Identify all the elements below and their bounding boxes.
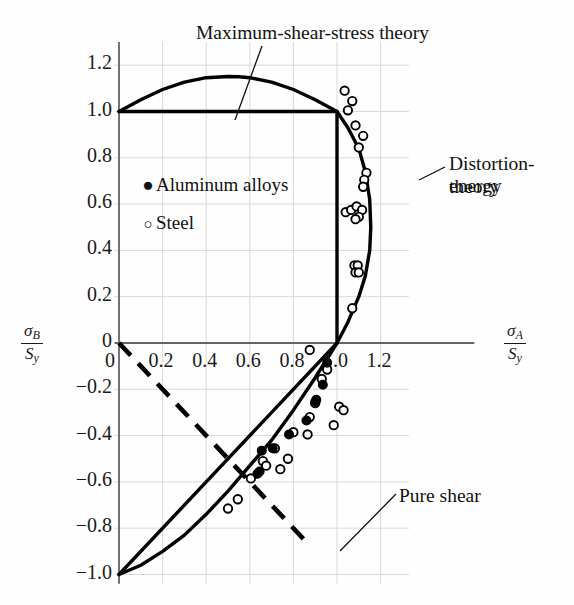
x-tick-label: 0 xyxy=(105,349,115,372)
y-tick-label: −0.6 xyxy=(76,468,112,491)
legend-item-aluminum-alloys: ●Aluminum alloys xyxy=(140,174,288,196)
x-axis-label: σA Sy xyxy=(487,322,543,364)
y-tick-label: 0.8 xyxy=(87,144,112,167)
annotation-leader-lines xyxy=(235,46,445,551)
y-tick-label: 0.4 xyxy=(87,236,112,259)
y-tick-label: 1.0 xyxy=(87,98,112,121)
legend-item-steel: ○Steel xyxy=(140,212,194,234)
annotation-pure-shear: Pure shear xyxy=(399,485,481,507)
y-tick-label: −0.4 xyxy=(76,422,112,445)
y-tick-label: −1.0 xyxy=(76,561,112,584)
x-tick-label: 0.4 xyxy=(192,349,217,372)
legend-label-aluminum-alloys: Aluminum alloys xyxy=(156,174,288,195)
y-tick-label: 0 xyxy=(102,329,112,352)
y-tick-label: −0.8 xyxy=(76,514,112,537)
y-tick-label: 0.6 xyxy=(87,190,112,213)
x-tick-label: 0.6 xyxy=(236,349,261,372)
x-axis-sy-subscript: y xyxy=(517,351,522,365)
x-tick-label: 1.2 xyxy=(367,349,392,372)
x-tick-label: 1.0 xyxy=(323,349,348,372)
filled-circle-marker-icon: ● xyxy=(140,174,156,196)
theory-curves xyxy=(119,77,371,575)
x-axis-sigma-subscript: A xyxy=(515,328,522,342)
y-tick-label: 1.2 xyxy=(87,51,112,74)
y-axis-sy-subscript: y xyxy=(34,351,39,365)
y-tick-label: −0.2 xyxy=(76,375,112,398)
y-axis-sigma-subscript: B xyxy=(32,328,39,342)
open-circle-marker-icon: ○ xyxy=(140,216,156,233)
x-axis-sy-symbol: S xyxy=(508,344,517,363)
y-tick-label: 0.2 xyxy=(87,283,112,306)
y-axis-sy-symbol: S xyxy=(25,344,34,363)
annotation-distortion-energy-theory-line2: theory xyxy=(449,176,499,198)
grid-lines xyxy=(115,42,409,584)
x-tick-label: 0.8 xyxy=(279,349,304,372)
annotation-maximum-shear-stress-theory: Maximum-shear-stress theory xyxy=(196,22,429,44)
legend-label-steel: Steel xyxy=(156,212,194,233)
data-points xyxy=(224,86,371,512)
failure-theory-chart: 00.20.40.60.81.01.2 1.21.00.80.60.40.20−… xyxy=(0,0,574,605)
y-axis-label: σB Sy xyxy=(4,322,60,364)
x-tick-label: 0.2 xyxy=(149,349,174,372)
